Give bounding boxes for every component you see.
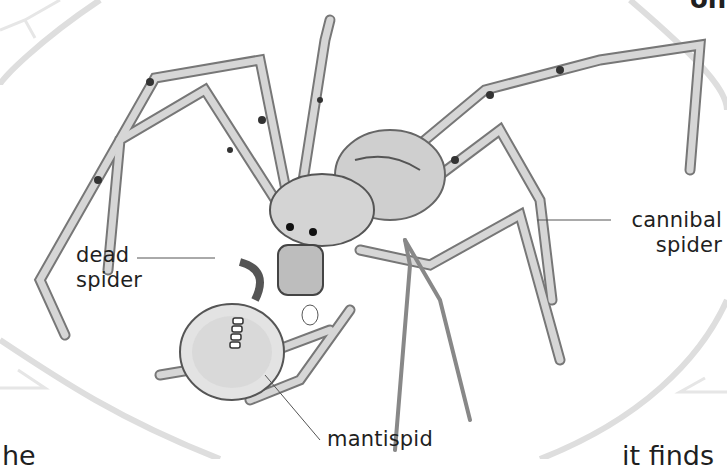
label-cannibal-spider: cannibal spider — [631, 208, 722, 258]
spider-legs — [40, 20, 700, 450]
label-dead-spider-line1: dead — [76, 243, 142, 268]
page-text-top-fragment: on — [690, 0, 726, 14]
label-dead-spider: dead spider — [76, 243, 142, 293]
label-mantispid: mantispid — [327, 427, 433, 452]
page-text-bottom-right-fragment: it finds — [622, 440, 714, 469]
label-cannibal-spider-line1: cannibal — [631, 208, 722, 233]
label-dead-spider-line2: spider — [76, 268, 142, 293]
label-cannibal-spider-line2: spider — [631, 233, 722, 258]
page-text-bottom-left-fragment: he — [2, 440, 36, 469]
